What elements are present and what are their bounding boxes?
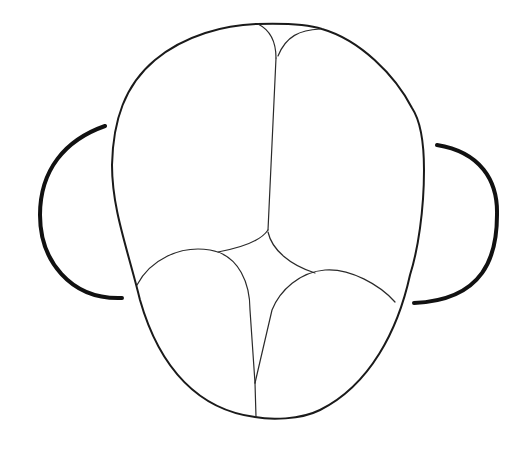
suture-left-upper [218,230,268,252]
suture-right-upper [268,232,315,273]
skull-diagram [0,0,516,449]
occipital-midline [255,383,256,417]
sagittal-suture [268,58,276,230]
anterior-suture-left [258,24,276,58]
lambdoid-right [255,270,395,383]
lambdoid-left [137,249,255,383]
right-ear [414,145,497,303]
anterior-suture-right [278,29,320,56]
left-ear [40,126,122,298]
